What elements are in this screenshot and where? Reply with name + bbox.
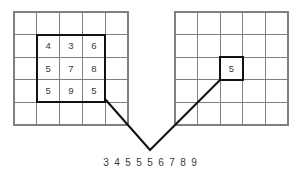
sorted-neighborhood-sequence: 345556789 xyxy=(103,157,197,168)
grid-cell-value: 6 xyxy=(91,40,96,51)
sequence-digit: 5 xyxy=(136,157,142,168)
sequence-digit: 8 xyxy=(180,157,186,168)
sequence-digit: 9 xyxy=(191,157,197,168)
grid-cell-value: 4 xyxy=(46,40,51,51)
v-connector xyxy=(105,80,220,150)
sequence-digit: 4 xyxy=(114,157,120,168)
v-connector-path xyxy=(105,80,220,150)
sequence-digit: 3 xyxy=(103,157,109,168)
grid-cell-value: 3 xyxy=(68,40,73,51)
grid-cell-value: 5 xyxy=(91,85,96,96)
grid-cell-value: 5 xyxy=(46,85,51,96)
median-filter-diagram: 436578595 5 345556789 xyxy=(0,0,297,178)
grid-cell-value: 9 xyxy=(68,85,73,96)
grid-cell-value: 5 xyxy=(46,63,51,74)
sequence-digit: 6 xyxy=(158,157,164,168)
grid-cell-value: 5 xyxy=(229,63,234,74)
grid-cell-value: 7 xyxy=(68,63,73,74)
sequence-digit: 7 xyxy=(169,157,175,168)
grid-cell-value: 8 xyxy=(91,63,96,74)
sequence-digit: 5 xyxy=(147,157,153,168)
input-image-grid: 436578595 xyxy=(14,12,128,125)
sequence-digit: 5 xyxy=(125,157,131,168)
